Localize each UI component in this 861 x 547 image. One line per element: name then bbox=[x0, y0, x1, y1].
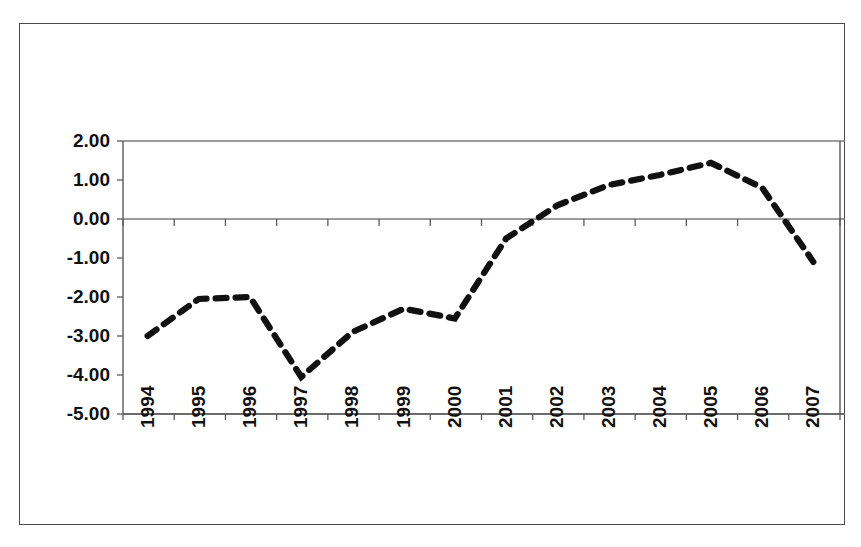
x-tick-label: 1996 bbox=[239, 386, 260, 428]
y-tick-label: 2.00 bbox=[73, 130, 110, 151]
data-series-group bbox=[148, 163, 814, 377]
x-tick-labels: 1994199519961997199819992000200120022003… bbox=[137, 385, 824, 428]
x-tick-label: 1997 bbox=[290, 386, 311, 428]
y-tick-label: 1.00 bbox=[73, 169, 110, 190]
x-tick-label: 2003 bbox=[598, 386, 619, 428]
line-chart: 2.001.000.00-1.00-2.00-3.00-4.00-5.00 19… bbox=[0, 0, 861, 547]
x-tick-label: 1998 bbox=[341, 386, 362, 428]
x-tick-label: 1995 bbox=[188, 385, 209, 428]
x-tick-label: 1999 bbox=[393, 386, 414, 428]
x-tick-label: 2000 bbox=[444, 386, 465, 428]
y-tick-labels: 2.001.000.00-1.00-2.00-3.00-4.00-5.00 bbox=[67, 130, 110, 424]
x-tick-marks bbox=[123, 219, 840, 420]
y-tick-label: -5.00 bbox=[67, 403, 110, 424]
x-tick-label: 2001 bbox=[495, 385, 516, 428]
y-tick-label: 0.00 bbox=[73, 208, 110, 229]
series-line-dashed bbox=[148, 163, 814, 377]
x-tick-label: 2006 bbox=[751, 386, 772, 428]
gridlines-group bbox=[123, 141, 845, 414]
x-tick-label: 2007 bbox=[802, 386, 823, 428]
x-tick-label: 1994 bbox=[137, 385, 158, 428]
y-tick-label: -2.00 bbox=[67, 286, 110, 307]
x-tick-label: 2005 bbox=[700, 385, 721, 428]
x-tick-label: 2004 bbox=[649, 385, 670, 428]
y-tick-label: -1.00 bbox=[67, 247, 110, 268]
figure-root: 2.001.000.00-1.00-2.00-3.00-4.00-5.00 19… bbox=[0, 0, 861, 547]
x-tick-label: 2002 bbox=[546, 386, 567, 428]
y-tick-label: -3.00 bbox=[67, 325, 110, 346]
y-tick-label: -4.00 bbox=[67, 364, 110, 385]
y-tick-marks bbox=[117, 141, 123, 414]
